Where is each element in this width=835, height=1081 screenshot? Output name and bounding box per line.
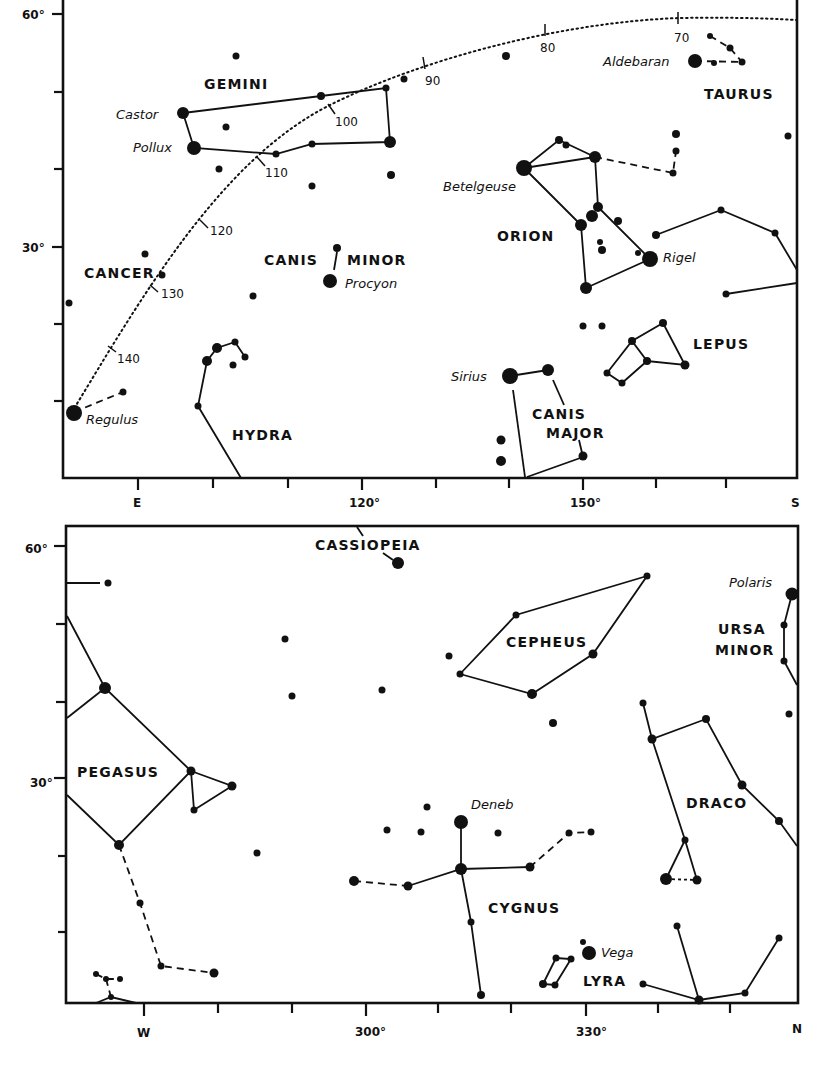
label-aldebaran: Aldebaran [602, 54, 670, 69]
bottom-x-label-w: W [137, 1026, 150, 1040]
constellation-cassiopeia: CASSIOPEIA [315, 527, 421, 569]
ecliptic-label-90: 90 [425, 74, 440, 88]
constellation-ursa-minor: Polaris URSA MINOR [66, 575, 799, 685]
bottom-x-label-330: 330° [576, 1025, 607, 1039]
label-cygnus: CYGNUS [488, 900, 560, 916]
top-y-label-60: 60° [22, 8, 45, 22]
constellation-draco: DRACO [640, 700, 798, 1005]
bottom-y-axis: 60° 30° [25, 542, 66, 932]
label-ursa-minor-1: URSA [718, 621, 766, 637]
ecliptic-label-130: 130 [161, 287, 184, 301]
top-x-axis: E 120° 150° S [133, 478, 800, 510]
label-deneb: Deneb [471, 797, 514, 812]
label-hydra: HYDRA [232, 427, 293, 443]
star-regulus [66, 405, 82, 421]
top-y-axis: 60° 30° [22, 8, 63, 401]
field-stars [105, 580, 793, 857]
bottom-x-label-n: N [792, 1022, 802, 1036]
label-gemini: GEMINI [204, 76, 268, 92]
ecliptic-label-120: 120 [210, 224, 233, 238]
label-draco: DRACO [686, 795, 747, 811]
bottom-y-label-30: 30° [30, 776, 53, 790]
star-rigel [642, 251, 658, 267]
ecliptic-label-140: 140 [117, 352, 140, 366]
bottom-x-axis: W 300° 330° N [137, 1003, 802, 1040]
constellation-orion: Betelgeuse ORION Rigel [443, 130, 797, 330]
label-regulus: Regulus [86, 412, 138, 427]
label-polaris: Polaris [729, 575, 772, 590]
label-cepheus: CEPHEUS [506, 634, 587, 650]
bottom-chart-frame [66, 526, 798, 1003]
top-x-label-120: 120° [349, 496, 380, 510]
label-rigel: Rigel [663, 250, 696, 265]
top-chart: 60° 30° E 120° 150° S [22, 0, 800, 510]
label-procyon: Procyon [345, 276, 397, 291]
label-orion: ORION [497, 228, 555, 244]
ecliptic-label-100: 100 [335, 115, 358, 129]
constellation-leo: Regulus [66, 389, 138, 428]
top-x-label-150: 150° [570, 496, 601, 510]
star-sirius [502, 368, 518, 384]
ecliptic: 70 80 90 100 110 120 130 140 [72, 12, 797, 412]
star-betelgeuse [516, 160, 532, 176]
bottom-y-label-60: 60° [25, 542, 48, 556]
star-aldebaran [688, 54, 702, 68]
label-lyra: LYRA [583, 973, 626, 989]
label-canis-minor-1: CANIS [264, 252, 318, 268]
constellation-gemini: GEMINI Castor Pollux [116, 53, 408, 190]
bottom-x-label-300: 300° [355, 1025, 386, 1039]
label-pegasus: PEGASUS [77, 764, 159, 780]
constellation-cepheus: CEPHEUS [457, 573, 651, 700]
constellation-lepus: LEPUS [604, 319, 750, 387]
ecliptic-label-70: 70 [674, 31, 689, 45]
top-y-label-30: 30° [22, 241, 45, 255]
label-canis-major-2: MAJOR [546, 425, 605, 441]
top-chart-frame [63, 0, 797, 478]
ecliptic-label-110: 110 [265, 166, 288, 180]
star-polaris [786, 588, 799, 601]
label-pollux: Pollux [133, 140, 172, 155]
star-charts: 60° 30° E 120° 150° S [0, 0, 835, 1081]
constellation-pegasus: PEGASUS [67, 616, 237, 1003]
top-x-label-s: S [791, 496, 800, 510]
star-vega [582, 946, 596, 960]
label-cancer: CANCER [84, 265, 155, 281]
star-deneb [454, 815, 468, 829]
label-vega: Vega [601, 945, 633, 960]
label-betelgeuse: Betelgeuse [443, 179, 516, 194]
label-ursa-minor-2: MINOR [715, 642, 775, 658]
ecliptic-label-80: 80 [540, 41, 555, 55]
label-sirius: Sirius [451, 369, 487, 384]
constellation-canis-major: Sirius CANIS MAJOR [451, 364, 605, 477]
star-castor [177, 107, 189, 119]
label-lepus: LEPUS [693, 336, 749, 352]
label-canis-minor-2: MINOR [347, 252, 407, 268]
constellation-cygnus: Deneb CYGNUS [349, 797, 595, 999]
constellation-canis-minor: CANIS MINOR Procyon [264, 244, 407, 291]
top-x-label-e: E [133, 496, 141, 510]
label-castor: Castor [116, 107, 160, 122]
constellation-lyra: Vega LYRA [539, 939, 633, 989]
label-canis-major-1: CANIS [532, 406, 586, 422]
star-procyon [323, 274, 337, 288]
label-taurus: TAURUS [704, 86, 774, 102]
bottom-chart: 60° 30° W 300° 330° N CASSIOPEIA [25, 526, 802, 1040]
constellation-hydra: HYDRA [195, 339, 294, 479]
star-pollux [187, 141, 201, 155]
label-cassiopeia: CASSIOPEIA [315, 537, 421, 553]
